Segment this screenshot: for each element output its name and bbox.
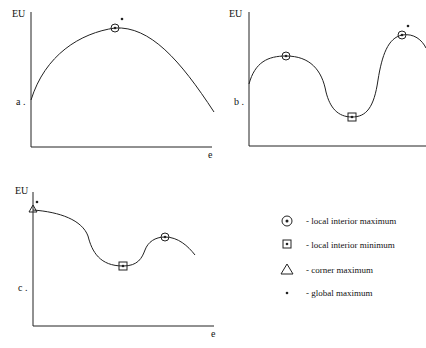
panel-a <box>31 12 214 147</box>
asterisk-icon <box>121 18 124 21</box>
legend-label-global-max: - global maximum <box>306 288 373 298</box>
asterisk-icon <box>286 292 289 295</box>
panel-a-x-label: e <box>208 150 212 160</box>
triangle-icon <box>281 264 293 274</box>
panel-b-curve <box>249 35 426 117</box>
panel-c-x-label: e <box>211 329 215 339</box>
panel-a-curve <box>31 28 214 112</box>
panel-a-label: a . <box>16 97 25 107</box>
asterisk-icon <box>407 25 410 28</box>
panel-b-label: b . <box>234 97 244 107</box>
asterisk-icon <box>36 201 39 204</box>
panel-c-y-label: EU <box>15 186 28 196</box>
legend-label-local-min: - local interior minimum <box>306 240 395 250</box>
panel-a-y-label: EU <box>12 9 25 19</box>
panel-c <box>29 192 214 326</box>
legend-label-corner-max: - corner maximum <box>306 265 373 275</box>
panel-b-y-label: EU <box>229 9 242 19</box>
panel-c-curve <box>33 210 195 266</box>
panel-c-label: c . <box>18 283 27 293</box>
legend-label-local-max: - local interior maximum <box>306 216 396 226</box>
panel-b <box>249 12 426 146</box>
